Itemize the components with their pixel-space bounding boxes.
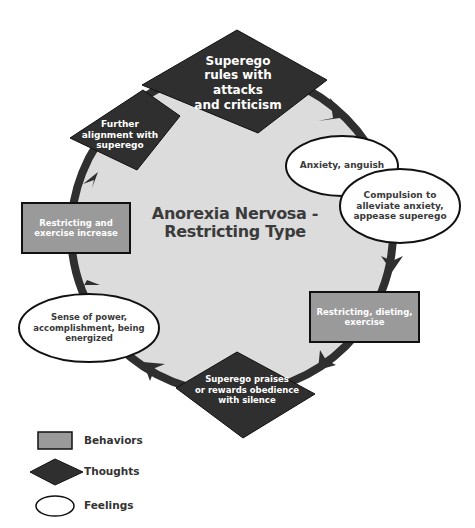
label-line: Restricting and (34, 218, 117, 228)
legend-thought-swatch (30, 459, 83, 485)
label-line: accomplishment, being (33, 323, 144, 333)
label-line: appease superego (353, 211, 446, 222)
title-line-1: Anorexia Nervosa - (152, 205, 318, 223)
diagram-title: Anorexia Nervosa - Restricting Type (140, 200, 330, 246)
label-line: exercise (317, 317, 413, 327)
legend-label-behaviors: Behaviors (84, 434, 143, 446)
node-label-compulsion: Compulsion to alleviate anxiety, appease… (344, 182, 456, 230)
label-line: Sense of power, (33, 312, 144, 322)
legend-label-feelings: Feelings (84, 499, 133, 511)
label-line: or rewards obedience (195, 385, 299, 395)
label-line: superego (82, 140, 159, 151)
label-line: Superego praises (195, 374, 299, 384)
label-line: alignment with (82, 130, 159, 141)
label-line: rules with attacks (178, 68, 298, 97)
label-line: with silence (195, 395, 299, 405)
node-label-sense-of-power: Sense of power, accomplishment, being en… (24, 306, 154, 350)
node-label-superego-praises: Superego praises or rewards obedience wi… (186, 370, 308, 410)
title-line-2: Restricting Type (152, 223, 318, 241)
node-label-restricting-increase: Restricting and exercise increase (22, 205, 130, 251)
legend-feeling-swatch (36, 496, 74, 516)
legend-behavior-swatch (38, 432, 72, 449)
label-line: and criticism (178, 98, 298, 113)
node-label-superego-rules: Superego rules with attacks and criticis… (178, 52, 298, 114)
label-line: Restricting, dieting, (317, 307, 413, 317)
label-line: Compulsion to (353, 190, 446, 201)
legend-label-thoughts: Thoughts (84, 465, 140, 477)
label-line: energized (33, 333, 144, 343)
node-label-further-alignment: Further alignment with superego (70, 112, 170, 158)
node-label-anxiety: Anxiety, anguish (290, 150, 394, 180)
label-line: Anxiety, anguish (300, 160, 385, 171)
node-label-restricting-dieting: Restricting, dieting, exercise (310, 294, 419, 340)
label-line: Further (82, 119, 159, 130)
label-line: alleviate anxiety, (353, 201, 446, 212)
label-line: exercise increase (34, 228, 117, 238)
label-line: Superego (178, 54, 298, 69)
